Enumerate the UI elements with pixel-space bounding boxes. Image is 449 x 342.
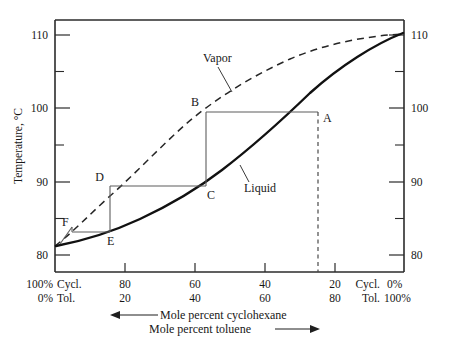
- y-axis-title: Temperature, °C: [12, 108, 25, 184]
- point-label-c: C: [207, 188, 215, 202]
- y-label-left-110: 110: [31, 29, 48, 41]
- x-label-cycl-80: 80: [119, 278, 131, 290]
- point-label-e: E: [107, 234, 114, 248]
- y-label-right-90: 90: [411, 176, 423, 188]
- x-label-cycl-100: 100%: [26, 278, 53, 290]
- vapor-region-label: Vapor: [203, 51, 232, 65]
- phase-diagram-svg: A B C D E F Vapor Liquid 110 100 90 80 1…: [0, 0, 449, 342]
- x-label-cycl-40: 40: [259, 278, 271, 290]
- y-label-right-80: 80: [411, 249, 423, 261]
- point-label-a: A: [323, 111, 332, 125]
- x-label-tol-40: 40: [189, 292, 201, 304]
- x-label-cycl-20: 20: [329, 278, 341, 290]
- point-label-b: B: [191, 95, 199, 109]
- x-label-tol-0: 0%: [38, 292, 54, 304]
- x-label-cycl-60: 60: [189, 278, 201, 290]
- y-label-right-100: 100: [411, 102, 429, 114]
- y-label-left-100: 100: [31, 102, 49, 114]
- x-label-cycl-0: 0%: [387, 278, 403, 290]
- x-label-tol-name-left: Tol.: [57, 292, 75, 304]
- x-label-tol-60: 60: [259, 292, 271, 304]
- x-label-tol-20: 20: [119, 292, 131, 304]
- liquid-region-label: Liquid: [244, 181, 276, 195]
- x-label-tol-100: 100%: [384, 292, 411, 304]
- x-label-tol-name-right: Tol.: [362, 292, 380, 304]
- toluene-caption: Mole percent toluene: [149, 322, 251, 336]
- x-label-tol-80: 80: [329, 292, 341, 304]
- y-label-left-80: 80: [37, 249, 49, 261]
- point-label-f: F: [62, 215, 69, 229]
- cyclohexane-caption: Mole percent cyclohexane: [160, 308, 287, 322]
- point-label-d: D: [95, 170, 104, 184]
- x-label-cycl-name-right: Cycl.: [355, 278, 380, 291]
- phase-diagram-figure: A B C D E F Vapor Liquid 110 100 90 80 1…: [0, 0, 449, 342]
- y-label-left-90: 90: [37, 176, 49, 188]
- x-label-cycl-name-left: Cycl.: [57, 278, 82, 291]
- y-label-right-110: 110: [411, 29, 428, 41]
